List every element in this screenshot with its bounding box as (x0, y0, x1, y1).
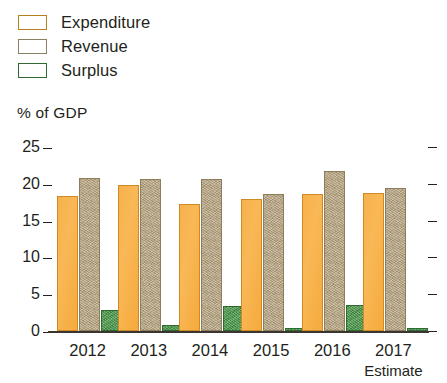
gdp-bar-chart: Expenditure Revenue Surplus % of GDP 051… (0, 0, 447, 383)
y-tick-15: 15 (14, 212, 52, 230)
bar-expenditure-2012 (57, 196, 78, 331)
x-axis-label-2017: 2017 (355, 341, 432, 359)
y-tick-mark (43, 258, 52, 259)
bar-revenue-2015 (263, 194, 284, 331)
bar-expenditure-2016 (302, 194, 323, 331)
bar-revenue-2012 (79, 178, 100, 331)
y-tick-mark-right (428, 147, 437, 148)
y-tick-mark-right (428, 331, 437, 332)
bar-expenditure-2013 (118, 185, 139, 331)
y-tick-label: 25 (14, 138, 40, 156)
y-tick-mark (43, 222, 52, 223)
bar-revenue-2017 (385, 188, 406, 331)
y-tick-mark (43, 185, 52, 186)
y-tick-20: 20 (14, 175, 52, 193)
bar-expenditure-2014 (179, 204, 200, 331)
bar-expenditure-2017 (363, 193, 384, 331)
y-tick-mark-right (428, 184, 437, 185)
x-axis-annotation-2017: Estimate (355, 362, 432, 379)
x-axis-baseline (48, 331, 429, 333)
y-tick-25: 25 (14, 138, 52, 156)
y-tick-label: 0 (14, 322, 40, 340)
y-tick-5: 5 (14, 285, 52, 303)
bar-expenditure-2015 (241, 199, 262, 331)
y-tick-10: 10 (14, 248, 52, 266)
bar-revenue-2013 (140, 179, 161, 331)
y-tick-label: 10 (14, 248, 40, 266)
bar-revenue-2014 (201, 179, 222, 331)
y-tick-label: 20 (14, 175, 40, 193)
y-tick-mark-right (428, 257, 437, 258)
y-tick-mark (43, 295, 52, 296)
y-tick-mark (43, 148, 52, 149)
plot-area: 0510152025 201220132014201520162017Estim… (0, 0, 447, 383)
y-tick-mark-right (428, 221, 437, 222)
bar-revenue-2016 (324, 171, 345, 331)
y-tick-0: 0 (14, 322, 52, 340)
y-tick-label: 15 (14, 212, 40, 230)
y-tick-label: 5 (14, 285, 40, 303)
y-tick-mark-right (428, 294, 437, 295)
